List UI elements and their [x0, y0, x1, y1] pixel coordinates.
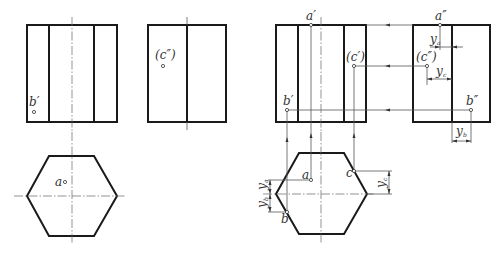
point-c-double-prime [161, 64, 164, 67]
dim-label-y: y [435, 64, 443, 78]
arrow-icon [427, 78, 432, 81]
arrow-icon [388, 189, 391, 194]
point-b-prime [285, 108, 288, 111]
dim-label-sub-c: c [381, 177, 388, 181]
point-b-prime [32, 110, 35, 113]
right-figure: y a y c y b y a y b [255, 9, 490, 243]
dim-label-y: y [374, 181, 388, 189]
dim-label-sub-b: b [463, 131, 467, 138]
dimension-ya: y a [429, 32, 463, 49]
label-c-double-prime: (c″) [155, 48, 176, 62]
arrow-left-icon [385, 65, 390, 68]
label-b-prime: b′ [283, 94, 294, 108]
drawing-canvas: b′ (c″) a [0, 0, 501, 257]
arrow-up-icon [310, 133, 313, 138]
right-front-view [276, 17, 366, 132]
dimension-ya-top: y a [255, 179, 272, 194]
point-a [63, 180, 66, 183]
dimension-yc-top: y c [374, 171, 391, 194]
left-side-view: (c″) [148, 17, 226, 130]
point-b-double-prime [469, 108, 472, 111]
arrow-icon [452, 140, 457, 143]
arrow-icon [466, 140, 471, 143]
hexagon-outline [276, 153, 367, 234]
point-a-double-prime [438, 23, 441, 26]
arrow-up-icon [353, 133, 356, 138]
point-a-prime [309, 23, 312, 26]
projection-arrows [286, 24, 391, 143]
arrow-left-icon [385, 24, 390, 27]
dim-label-sub-a: a [262, 179, 269, 183]
label-c: c [346, 166, 353, 180]
label-b-prime: b′ [29, 95, 40, 109]
right-side-view [413, 25, 490, 122]
dimension-yb-top: y b [255, 194, 272, 212]
left-front-view: b′ [27, 17, 117, 132]
arrow-icon [388, 171, 391, 176]
dim-label-y: y [255, 183, 269, 191]
dim-label-y: y [429, 32, 437, 46]
left-figure: b′ (c″) a [14, 17, 226, 243]
dim-label-sub-c: c [443, 71, 447, 78]
dimension-yb-side: y b [452, 124, 471, 143]
label-b-double-prime: b″ [466, 94, 479, 108]
label-a-prime: a′ [306, 9, 316, 23]
dim-label-y: y [455, 124, 463, 138]
arrow-up-icon [286, 137, 289, 142]
label-a-double-prime: a″ [435, 9, 447, 23]
right-top-view [263, 132, 375, 243]
label-c-double-prime: (c″) [416, 50, 437, 64]
label-a: a [302, 168, 309, 182]
point-c [352, 169, 355, 172]
label-a: a [55, 175, 62, 189]
left-top-view: a [14, 132, 125, 243]
point-a [309, 178, 312, 181]
dimension-yc: y c [427, 64, 452, 81]
label-c-prime: (c′) [346, 50, 365, 64]
dim-label-y: y [255, 201, 269, 209]
dim-label-sub-b: b [262, 197, 269, 201]
point-c-prime [352, 64, 355, 67]
point-c-double-prime [425, 64, 428, 67]
dim-label-sub-a: a [437, 39, 441, 46]
label-b: b [281, 212, 289, 226]
arrow-left-icon [385, 109, 390, 112]
